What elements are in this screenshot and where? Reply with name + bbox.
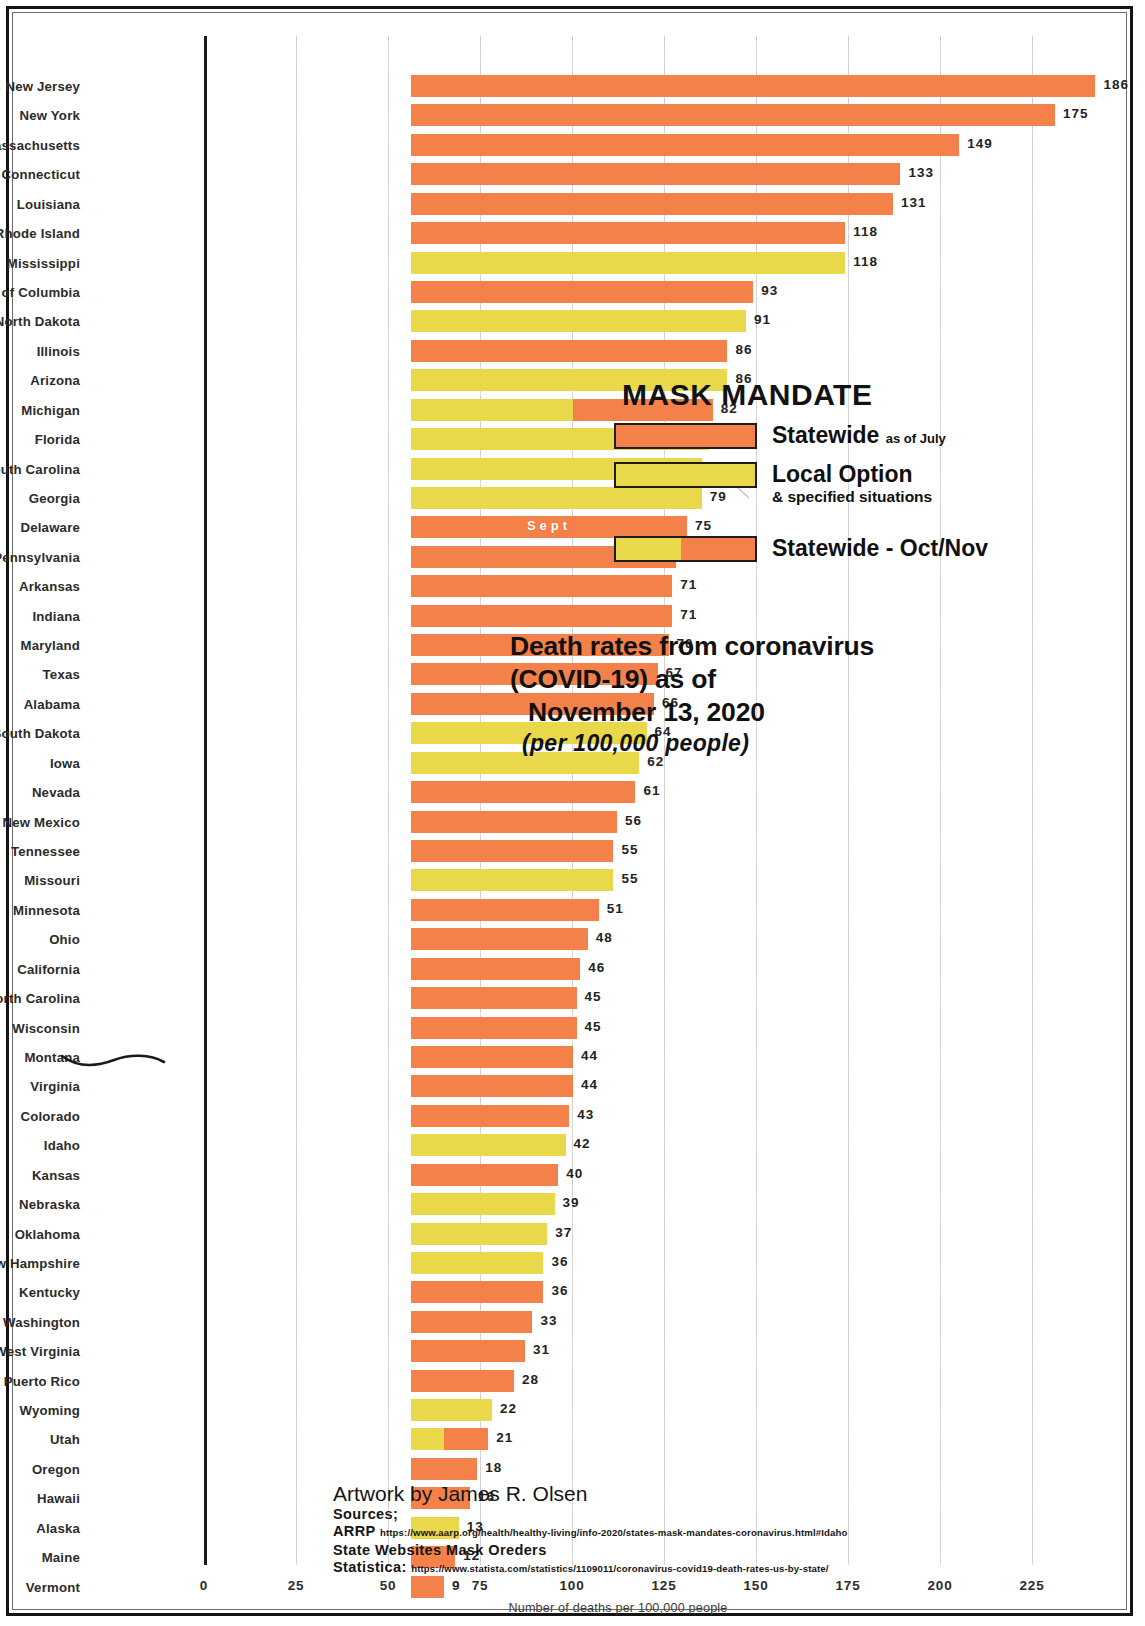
bar-row[interactable]: Wyoming22 [204, 1396, 1032, 1426]
bar[interactable] [411, 163, 900, 185]
bar[interactable] [411, 1428, 488, 1450]
bar-segment-statewide [411, 1340, 525, 1362]
bar-row[interactable]: Wisconsin45 [204, 1014, 1032, 1044]
bar[interactable] [411, 781, 635, 803]
bar-row[interactable]: Utah21 [204, 1425, 1032, 1455]
x-tick-25: 25 [288, 1578, 305, 1593]
bar[interactable] [411, 987, 577, 1009]
x-tick-0: 0 [200, 1578, 208, 1593]
bar-row[interactable]: Rhode Island118 [204, 219, 1032, 249]
bar-row[interactable]: Minnesota51 [204, 896, 1032, 926]
bar-row[interactable]: Missouri55 [204, 866, 1032, 896]
bar-row[interactable]: Nebraska39 [204, 1190, 1032, 1220]
bar[interactable] [411, 193, 893, 215]
bar-label-idaho: Idaho [0, 1135, 80, 1157]
bar-row[interactable]: New Jersey186 [204, 72, 1032, 102]
bar[interactable] [411, 104, 1055, 126]
bar-label-california: California [0, 959, 80, 981]
bar-row[interactable]: Nevada61 [204, 778, 1032, 808]
bar-row[interactable]: Connecticut133 [204, 160, 1032, 190]
bar-segment-statewide [411, 222, 845, 244]
bar[interactable] [411, 1576, 444, 1598]
bar[interactable] [411, 811, 617, 833]
bar[interactable] [411, 899, 599, 921]
bar[interactable] [411, 1311, 532, 1333]
bar[interactable] [411, 1164, 558, 1186]
bar[interactable] [411, 1046, 573, 1068]
bar[interactable] [411, 1370, 514, 1392]
bar[interactable] [411, 605, 672, 627]
bar-row[interactable]: Ohio48 [204, 925, 1032, 955]
credit-source-statistica: Statistica: https://www.statista.com/sta… [333, 1559, 848, 1578]
bar-row[interactable]: Illinois86 [204, 337, 1032, 367]
bar-row[interactable]: North Dakota91 [204, 307, 1032, 337]
bar[interactable] [411, 1458, 477, 1480]
bar[interactable] [411, 281, 753, 303]
bar[interactable] [411, 1193, 555, 1215]
bar-label-arizona: Arizona [0, 370, 80, 392]
bar-row[interactable]: Puerto Rico28 [204, 1367, 1032, 1397]
x-tick-50: 50 [380, 1578, 397, 1593]
bar-value: 44 [581, 1077, 598, 1092]
bar[interactable] [411, 75, 1095, 97]
bar-row[interactable]: Indiana71 [204, 602, 1032, 632]
bar-label-texas: Texas [0, 664, 80, 686]
bar[interactable] [411, 928, 588, 950]
bar-row[interactable]: New York175 [204, 101, 1032, 131]
legend-swatch-statewide-oct-nov [614, 536, 757, 562]
bar-row[interactable]: Arkansas71 [204, 572, 1032, 602]
bar[interactable] [411, 1252, 543, 1274]
bar-row[interactable]: Mississippi118 [204, 249, 1032, 279]
bar-value: 133 [908, 165, 934, 180]
bar-value: 44 [581, 1048, 598, 1063]
bar-row[interactable]: New Mexico56 [204, 808, 1032, 838]
bar-row[interactable]: Idaho42 [204, 1131, 1032, 1161]
bar-row[interactable]: Tennessee55 [204, 837, 1032, 867]
bar-row[interactable]: Kansas40 [204, 1161, 1032, 1191]
bar-row[interactable]: California46 [204, 955, 1032, 985]
bar[interactable] [411, 1399, 492, 1421]
bar[interactable] [411, 1340, 525, 1362]
bar-row[interactable]: Washington33 [204, 1308, 1032, 1338]
bar[interactable] [411, 340, 727, 362]
bar-row[interactable]: Oklahoma37 [204, 1220, 1032, 1250]
bar-row[interactable]: Massachusetts149 [204, 131, 1032, 161]
bar-row[interactable]: New Hampshire36 [204, 1249, 1032, 1279]
bar[interactable] [411, 1223, 547, 1245]
gridline-225 [1032, 36, 1033, 1565]
bar-row[interactable]: Colorado43 [204, 1102, 1032, 1132]
bar-row[interactable]: Virginia44 [204, 1072, 1032, 1102]
credit-source-arrp-url[interactable]: https://www.aarp.org/health/healthy-livi… [380, 1527, 848, 1538]
credit-source-statistica-url[interactable]: https://www.statista.com/statistics/1109… [411, 1563, 829, 1574]
bar-row[interactable]: West Virginia31 [204, 1337, 1032, 1367]
bar[interactable] [411, 1075, 573, 1097]
legend-entry-statewide-oct-nov[interactable]: Statewide - Oct/Nov [614, 536, 1084, 562]
bar-value: 21 [496, 1430, 513, 1445]
chart-title-line-3: November 13, 2020 [528, 696, 1110, 729]
bar[interactable] [411, 222, 845, 244]
bar[interactable] [411, 840, 613, 862]
legend-entry-local-option[interactable]: Local Option & specified situations [614, 462, 1084, 506]
bar-segment-statewide [444, 1428, 488, 1450]
bar-row[interactable]: Louisiana131 [204, 190, 1032, 220]
bar[interactable] [411, 1017, 577, 1039]
bar[interactable] [411, 575, 672, 597]
bar-label-north-dakota: North Dakota [0, 311, 80, 333]
bar[interactable] [411, 310, 746, 332]
bar-row[interactable]: North Carolina45 [204, 984, 1032, 1014]
bar-value: 61 [643, 783, 660, 798]
bar[interactable] [411, 1134, 566, 1156]
bar[interactable] [411, 1105, 569, 1127]
bar-row[interactable]: Kentucky36 [204, 1278, 1032, 1308]
bar[interactable] [411, 869, 613, 891]
bar-row[interactable]: Oregon18 [204, 1455, 1032, 1485]
bar-value: 55 [621, 871, 638, 886]
bar-value: 175 [1063, 106, 1089, 121]
bar[interactable] [411, 958, 580, 980]
bar[interactable] [411, 134, 959, 156]
bar-row[interactable]: Montana44 [204, 1043, 1032, 1073]
bar[interactable] [411, 252, 845, 274]
legend-entry-statewide[interactable]: Statewide as of July [614, 423, 1084, 451]
bar[interactable] [411, 1281, 543, 1303]
bar-row[interactable]: District of Columbia93 [204, 278, 1032, 308]
